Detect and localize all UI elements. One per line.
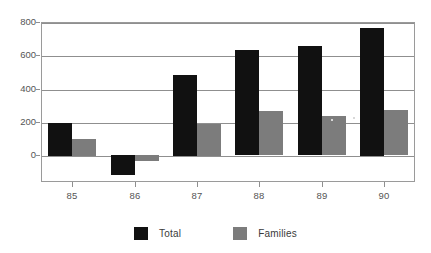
y-axis-tickmark [36,55,40,56]
y-axis-tickmark [36,22,40,23]
x-axis-tick-label: 86 [115,190,155,201]
chart-legend: Total Families [0,222,431,244]
y-axis-tick-label: 800 [0,17,36,27]
bar-total-86 [111,155,135,175]
bar-families-87 [197,124,221,156]
bar-total-89 [298,46,322,155]
bar-total-90 [360,28,384,156]
y-axis-tickmark [36,155,40,156]
x-axis-ticks [41,182,415,188]
bar-total-88 [235,50,259,155]
y-axis-tick-label: 0 [0,150,36,160]
scan-speck [353,117,355,119]
y-axis-tick-label: 200 [0,117,36,127]
y-axis-tick-label: 400 [0,84,36,94]
legend-entry-total: Total [134,227,181,240]
bar-total-87 [173,75,197,156]
y-axis-tick-label: 600 [0,50,36,60]
bar-chart: 0200400600800 858687888990 Total Familie… [0,0,431,253]
legend-swatch-families-icon [233,227,247,240]
bars-layer [41,22,415,182]
legend-entry-families: Families [233,227,297,240]
bar-families-90 [384,110,408,155]
bar-families-85 [72,139,96,156]
scan-speck [331,119,333,121]
x-axis-tick-label: 85 [52,190,92,201]
legend-label-total: Total [159,228,181,239]
x-axis-tick-label: 87 [177,190,217,201]
x-axis-labels: 858687888990 [41,190,415,204]
x-axis-tickmark [384,182,385,187]
y-axis-labels: 0200400600800 [0,22,36,182]
bar-families-89 [322,116,346,155]
legend-label-families: Families [258,228,297,239]
y-axis-tickmark [36,122,40,123]
x-axis-tick-label: 88 [239,190,279,201]
x-axis-tick-label: 89 [302,190,342,201]
bar-total-85 [48,123,72,156]
x-axis-tickmark [259,182,260,187]
bar-families-86 [135,155,159,161]
legend-swatch-total-icon [134,227,148,240]
x-axis-tickmark [72,182,73,187]
x-axis-tickmark [135,182,136,187]
x-axis-tickmark [322,182,323,187]
bar-families-88 [259,111,283,155]
y-axis-tickmark [36,89,40,90]
x-axis-tickmark [197,182,198,187]
x-axis-tick-label: 90 [364,190,404,201]
